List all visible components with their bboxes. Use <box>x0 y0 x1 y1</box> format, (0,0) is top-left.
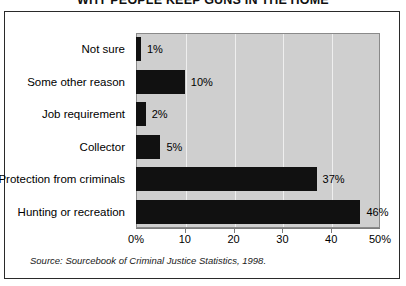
category-axis-labels: Not sureSome other reasonJob requirement… <box>0 33 131 228</box>
x-tick-label: 0% <box>116 233 156 245</box>
bar-value-label: 46% <box>366 201 388 223</box>
bar <box>136 200 360 224</box>
category-label: Collector <box>80 131 125 164</box>
bar-row: 37% <box>136 163 380 196</box>
bar-row: 10% <box>136 66 380 99</box>
source-note: Source: Sourcebook of Criminal Justice S… <box>30 255 266 266</box>
bar <box>136 135 160 159</box>
x-tick-label: 40 <box>311 233 351 245</box>
bar-row: 46% <box>136 196 380 229</box>
x-tick-label: 30 <box>262 233 302 245</box>
bar-value-label: 2% <box>152 103 168 125</box>
x-axis-line <box>136 228 380 229</box>
bar <box>136 70 185 94</box>
bar-value-label: 1% <box>147 38 163 60</box>
bar-value-label: 10% <box>191 71 213 93</box>
category-label: Some other reason <box>27 66 125 99</box>
chart-figure: WHY PEOPLE KEEP GUNS IN THE HOME 1%10%2%… <box>0 0 406 286</box>
category-label: Not sure <box>82 33 125 66</box>
bar-row: 5% <box>136 131 380 164</box>
bar-value-label: 5% <box>166 136 182 158</box>
x-tick-label: 10 <box>165 233 205 245</box>
category-label: Job requirement <box>42 98 125 131</box>
category-label: Protection from criminals <box>0 163 125 196</box>
x-tick-label: 20 <box>214 233 254 245</box>
bar-row: 1% <box>136 33 380 66</box>
category-label: Hunting or recreation <box>18 196 125 229</box>
chart-title: WHY PEOPLE KEEP GUNS IN THE HOME <box>0 0 406 7</box>
bar-series: 1%10%2%5%37%46% <box>136 33 380 228</box>
bar <box>136 102 146 126</box>
bar-value-label: 37% <box>323 168 345 190</box>
bar-row: 2% <box>136 98 380 131</box>
bar <box>136 37 141 61</box>
x-tick-label: 50% <box>360 233 400 245</box>
bar <box>136 167 317 191</box>
